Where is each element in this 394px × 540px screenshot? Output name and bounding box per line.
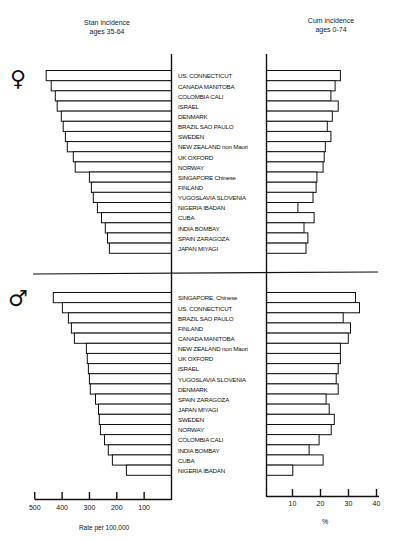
country-label: UK OXFORD: [178, 154, 214, 161]
country-label: SPAIN ZARAGOZA: [178, 235, 230, 242]
left-bar: [126, 465, 171, 475]
tick-label: 200: [111, 504, 123, 511]
right-bar: [267, 384, 339, 394]
right-bar: [267, 465, 293, 475]
right-bar: [267, 111, 333, 121]
country-label: INDIA BOMBAY: [178, 225, 220, 232]
country-label: SWEDEN: [178, 133, 204, 140]
right-bar: [267, 445, 310, 455]
country-label: YUGOSLAVIA SLOVENIA: [178, 376, 247, 383]
country-label: CUBA: [178, 214, 195, 221]
left-bar: [93, 192, 171, 202]
left-bar: [55, 91, 171, 101]
country-label: NORWAY: [178, 426, 204, 433]
right-bar: [267, 152, 325, 162]
tick-label: 30: [345, 500, 353, 507]
left-bar: [68, 313, 171, 323]
tick-label: 20: [317, 500, 325, 507]
tick-label: 10: [289, 500, 297, 507]
left-bar: [99, 414, 171, 424]
left-axis-ticks: 500400300200100: [29, 492, 150, 511]
right-bar: [267, 353, 341, 363]
country-label: CANADA MANITOBA: [178, 335, 235, 342]
country-label: COLOMBIA CALI: [178, 93, 224, 100]
left-bar: [96, 394, 172, 404]
right-bar: [267, 394, 327, 404]
country-label: SINGAPORE, Chinese: [178, 294, 238, 301]
right-bar: [267, 425, 332, 435]
left-bar: [65, 131, 171, 141]
right-bar: [267, 131, 331, 141]
right-bar: [267, 313, 344, 323]
left-bar: [90, 384, 171, 394]
country-label: ISRAEL: [178, 365, 200, 372]
country-label: ISRAEL: [178, 103, 200, 110]
country-label: INDIA BOMBAY: [178, 447, 220, 454]
country-label: SINGAPORE Chinese: [178, 174, 237, 181]
sex-divider: [33, 272, 378, 274]
country-label: JAPAN MIYAGI: [178, 245, 218, 252]
right-bar: [267, 81, 336, 91]
left-bar: [73, 152, 171, 162]
country-label: NIGERIA IBADAN: [178, 204, 225, 211]
right-bar: [267, 142, 326, 152]
left-bar: [53, 293, 171, 303]
country-label: BRAZIL SAO PAULO: [178, 315, 234, 322]
right-bar: [267, 203, 298, 213]
country-label: CANADA MANITOBA: [178, 83, 235, 90]
right-bar: [267, 293, 356, 303]
right-bar: [267, 213, 315, 223]
right-bar: [267, 243, 307, 253]
country-label: US. CONNECTICUT: [178, 72, 232, 79]
right-bar: [267, 172, 317, 182]
left-bar: [109, 243, 171, 253]
right-bar: [267, 364, 339, 374]
left-bar: [71, 323, 171, 333]
right-bar: [267, 303, 360, 313]
right-bar: [267, 455, 324, 465]
country-label: US. CONNECTICUT: [178, 305, 232, 312]
right-bar: [267, 91, 331, 101]
right-bar: [267, 121, 328, 131]
left-bar: [105, 223, 171, 233]
left-bar: [57, 101, 171, 111]
country-label: SPAIN ZARAGOZA: [178, 396, 230, 403]
country-label: NEW ZEALAND non Maori: [178, 345, 248, 352]
left-bar: [46, 71, 171, 81]
right-bar: [267, 192, 314, 202]
left-bar: [63, 121, 171, 131]
right-bar: [267, 162, 324, 172]
left-bar: [89, 374, 171, 384]
left-bar: [86, 343, 171, 353]
country-label: NIGERIA IBADAN: [178, 467, 225, 474]
right-bar: [267, 101, 339, 111]
country-label: JAPAN MIYAGI: [178, 406, 218, 413]
left-bar: [75, 162, 171, 172]
right-axis-ticks: 10203040: [289, 489, 381, 507]
left-axis-label: Rate per 100,000: [79, 524, 130, 532]
left-bar: [88, 364, 171, 374]
right-bar: [267, 233, 308, 243]
country-label: COLOMBIA CALI: [178, 436, 224, 443]
left-bar: [102, 213, 172, 223]
tick-label: 500: [29, 504, 41, 511]
tick-label: 40: [373, 500, 381, 507]
tick-label: 400: [56, 504, 68, 511]
left-bar: [74, 333, 171, 343]
country-label: CUBA: [178, 457, 195, 464]
country-label: FINLAND: [178, 325, 204, 332]
left-bar: [61, 111, 171, 121]
left-bar: [100, 425, 171, 435]
country-label: DENMARK: [178, 113, 209, 120]
right-bar: [267, 182, 317, 192]
cancer-incidence-chart: US. CONNECTICUTCANADA MANITOBACOLOMBIA C…: [0, 0, 394, 540]
tick-label: 300: [84, 504, 96, 511]
left-bar: [62, 303, 171, 313]
left-bar: [67, 142, 171, 152]
right-bar: [267, 223, 305, 233]
right-bar: [267, 333, 349, 343]
right-bar: [267, 71, 341, 81]
right-bar: [267, 404, 330, 414]
left-bar: [108, 233, 172, 243]
left-bar: [89, 172, 171, 182]
